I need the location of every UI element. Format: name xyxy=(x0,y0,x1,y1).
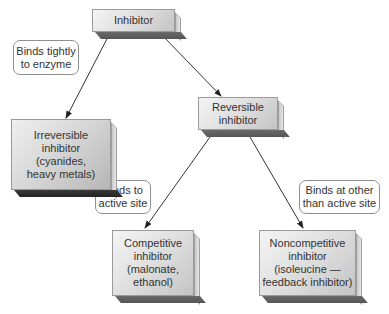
node-inhibitor: Inhibitor xyxy=(92,9,181,39)
edge-label-binds-tightly: Binds tightly to enzyme xyxy=(13,40,79,75)
node-irreversible-inhibitor: Irreversible inhibitor (cyanides, heavy … xyxy=(11,119,117,197)
inhibitor-diagram: Inhibitor Binds tightly to enzyme Irreve… xyxy=(0,0,389,314)
node-competitive-label: Competitive inhibitor (malonate, ethanol… xyxy=(112,230,194,296)
node-noncompetitive-inhibitor: Noncompetitive inhibitor (isoleucine — f… xyxy=(259,230,362,303)
node-competitive-inhibitor: Competitive inhibitor (malonate, ethanol… xyxy=(112,230,200,303)
arrow-reversible-to-competitive xyxy=(145,137,210,228)
node-reversible-label: Reversible inhibitor xyxy=(198,97,278,130)
node-irreversible-label: Irreversible inhibitor (cyanides, heavy … xyxy=(11,119,111,190)
arrow-inhibitor-to-reversible xyxy=(160,33,221,96)
node-inhibitor-label: Inhibitor xyxy=(92,9,175,32)
arrow-reversible-to-noncompetitive xyxy=(250,137,303,228)
edge-label-binds-other-site: Binds at other than active site xyxy=(299,180,380,214)
node-reversible-inhibitor: Reversible inhibitor xyxy=(198,97,284,137)
node-noncompetitive-label: Noncompetitive inhibitor (isoleucine — f… xyxy=(259,230,356,296)
